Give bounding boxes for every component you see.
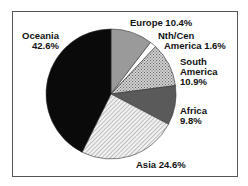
label-nca-value: America 1.6% bbox=[164, 41, 226, 51]
label-nth-cen-america: Nth/Cen America 1.6% bbox=[158, 31, 226, 51]
label-asia: Asia 24.6% bbox=[136, 160, 186, 170]
label-south-america: South America 10.9% bbox=[180, 57, 218, 87]
label-sa-value: 10.9% bbox=[180, 77, 218, 87]
label-africa-value: 9.8% bbox=[180, 116, 207, 126]
label-oceania-value: 42.6% bbox=[22, 41, 59, 51]
label-oceania: Oceania 42.6% bbox=[22, 31, 59, 51]
label-africa: Africa 9.8% bbox=[180, 106, 207, 126]
label-europe-text: Europe 10.4% bbox=[130, 18, 192, 28]
pie-chart bbox=[0, 0, 248, 186]
label-asia-text: Asia 24.6% bbox=[136, 160, 186, 170]
label-europe: Europe 10.4% bbox=[130, 18, 192, 28]
